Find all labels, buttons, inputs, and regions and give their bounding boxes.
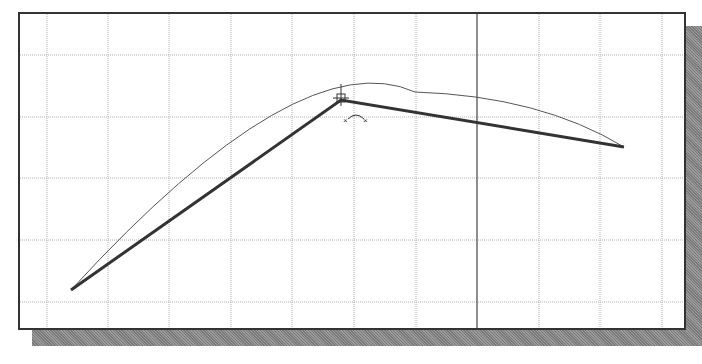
polyline-sketch[interactable]: [71, 100, 624, 290]
grid: [20, 14, 684, 328]
svg-text:×: ×: [343, 116, 348, 125]
tangent-constraint-icon: ××: [343, 115, 368, 125]
svg-text:×: ×: [363, 116, 368, 125]
arc-curve[interactable]: [71, 83, 624, 290]
